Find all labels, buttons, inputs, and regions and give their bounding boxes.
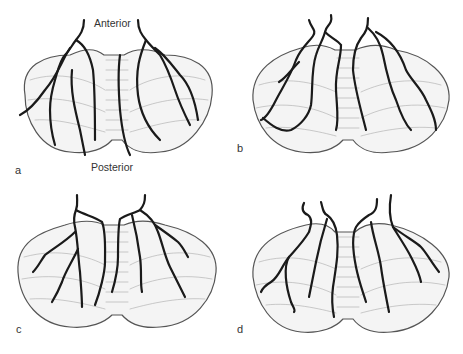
posterior-label: Posterior [91, 161, 133, 173]
cerebellum-illustration-b [231, 0, 463, 177]
anterior-label: Anterior [94, 17, 131, 29]
panel-a: Anterior Posterior a [0, 0, 231, 177]
panel-label-d: d [237, 323, 243, 335]
panel-label-c: c [16, 323, 22, 335]
panel-b: b [231, 0, 462, 177]
panel-label-a: a [15, 164, 21, 176]
cerebellum-illustration-d [231, 177, 463, 354]
panel-d: d [231, 177, 462, 354]
panel-label-b: b [237, 142, 243, 154]
panel-c: c [0, 177, 231, 354]
cerebellum-illustration-c [0, 177, 231, 354]
